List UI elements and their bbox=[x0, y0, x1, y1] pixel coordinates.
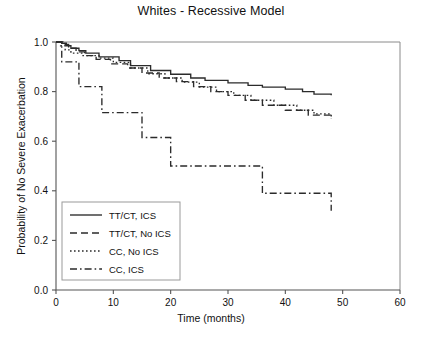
y-axis-ticks: 0.00.20.40.60.81.0 bbox=[34, 37, 56, 296]
data-series-group bbox=[56, 42, 331, 211]
legend-label: CC, No ICS bbox=[109, 246, 159, 257]
series-line-cc-ics bbox=[56, 42, 331, 211]
y-tick-label: 0.0 bbox=[34, 285, 48, 296]
series-line-tt-ct-ics bbox=[56, 42, 331, 95]
x-tick-label: 0 bbox=[53, 297, 59, 308]
chart-container: Whites - Recessive Model Probability of … bbox=[0, 0, 422, 337]
x-tick-label: 30 bbox=[222, 297, 234, 308]
chart-legend: TT/CT, ICSTT/CT, No ICSCC, No ICSCC, ICS bbox=[62, 202, 180, 280]
plot-area: 0102030405060 0.00.20.40.60.81.0 TT/CT, … bbox=[0, 0, 422, 337]
y-tick-label: 0.8 bbox=[34, 86, 48, 97]
y-tick-label: 0.2 bbox=[34, 235, 48, 246]
x-tick-label: 40 bbox=[280, 297, 292, 308]
x-tick-label: 60 bbox=[394, 297, 406, 308]
legend-label: CC, ICS bbox=[109, 264, 144, 275]
legend-label: TT/CT, ICS bbox=[109, 210, 156, 221]
x-axis-ticks: 0102030405060 bbox=[53, 290, 406, 308]
legend-label: TT/CT, No ICS bbox=[109, 228, 171, 239]
x-tick-label: 20 bbox=[165, 297, 177, 308]
y-tick-label: 0.6 bbox=[34, 136, 48, 147]
x-tick-label: 10 bbox=[108, 297, 120, 308]
x-tick-label: 50 bbox=[337, 297, 349, 308]
y-tick-label: 0.4 bbox=[34, 185, 48, 196]
y-tick-label: 1.0 bbox=[34, 37, 48, 48]
